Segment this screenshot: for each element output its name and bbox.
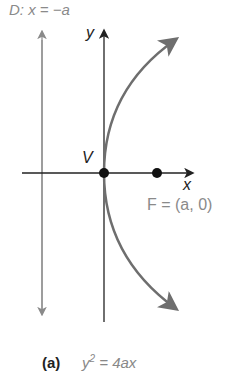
directrix-label: D: x = −a xyxy=(9,1,70,18)
parabola-upper xyxy=(104,40,175,173)
caption-equation: y2 = 4ax xyxy=(82,353,136,371)
parabola-diagram xyxy=(0,0,228,375)
focus-label: F = (a, 0) xyxy=(147,196,212,214)
vertex-label: V xyxy=(82,149,93,167)
caption-part: (a) xyxy=(42,354,60,371)
y-axis-label: y xyxy=(86,24,94,42)
x-axis-label: x xyxy=(183,176,191,194)
focus-point xyxy=(152,168,162,178)
parabola-lower xyxy=(104,173,175,308)
vertex-point xyxy=(99,168,109,178)
